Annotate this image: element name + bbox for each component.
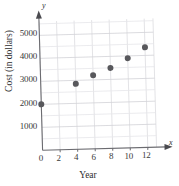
gridline-vertical (127, 19, 131, 148)
axis-arrowheads (36, 7, 173, 153)
y-variable-label: y (42, 1, 46, 10)
x-tick-label: 4 (67, 152, 85, 162)
y-axis-arrow (36, 10, 42, 18)
x-tick-label: 2 (50, 153, 68, 163)
data-point (73, 81, 79, 87)
x-tick-label: 6 (85, 152, 103, 162)
y-axis-title: Cost (in dollars) (4, 28, 14, 94)
x-tick-label: 8 (102, 151, 120, 161)
data-point (107, 65, 113, 71)
gridline-vertical (92, 20, 96, 149)
scatter-plot-figure: 10002000300040005000 024681012 Cost (in … (0, 0, 179, 186)
data-point (90, 72, 96, 78)
data-point (38, 101, 44, 107)
gridline-vertical (144, 19, 148, 148)
gridline-vertical (57, 21, 61, 150)
data-point (142, 44, 148, 50)
y-tick-label: 1000 (7, 121, 37, 131)
x-tick-label: 10 (120, 151, 138, 161)
gridline-vertical (109, 20, 113, 149)
data-points (37, 44, 150, 107)
x-tick-label: 12 (137, 150, 155, 160)
x-axis-title: Year (63, 170, 113, 180)
gridline-vertical (153, 18, 157, 147)
gridlines (39, 18, 157, 150)
x-tick-label: 0 (32, 153, 50, 163)
y-tick-label: 2000 (7, 98, 37, 108)
x-variable-label: x (169, 138, 173, 147)
y-axis-line (39, 16, 43, 151)
